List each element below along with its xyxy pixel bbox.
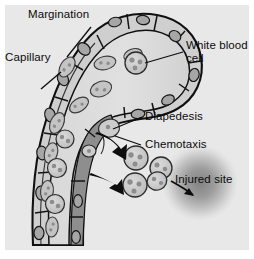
diagram-panel: Margination Capillary White blood cell D… [5, 5, 249, 250]
label-white-blood-cell-line2: cell [186, 52, 204, 65]
leukocyte-outside-3 [123, 173, 147, 197]
white-blood-cell-in-lumen [125, 52, 147, 74]
label-chemotaxis: Chemotaxis [145, 138, 207, 151]
diagram-figure: Margination Capillary White blood cell D… [0, 0, 254, 259]
diapedesis-cell-secondary [82, 145, 96, 157]
chemotaxis-leader [115, 136, 141, 145]
label-white-blood-cell-line1: White blood [186, 39, 248, 52]
label-margination: Margination [28, 8, 89, 21]
label-diapedesis: Diapedesis [145, 110, 203, 123]
label-capillary: Capillary [5, 51, 51, 64]
label-injured-site: Injured site [175, 173, 232, 186]
